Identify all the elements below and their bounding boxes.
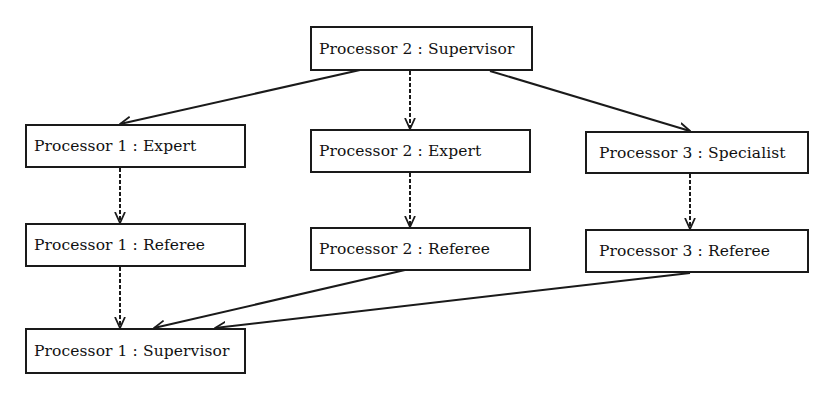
edge-p2referee-p1sup: [154, 270, 405, 328]
node-p1-referee: Processor 1 : Referee: [25, 223, 246, 267]
node-p3-specialist: Processor 3 : Specialist: [585, 131, 809, 174]
edge-p2sup-p3spec: [490, 71, 690, 131]
edge-p2sup-p1expert: [120, 70, 360, 124]
node-p1-supervisor: Processor 1 : Supervisor: [25, 328, 246, 374]
node-p2-supervisor: Processor 2 : Supervisor: [310, 26, 533, 71]
node-p2-referee: Processor 2 : Referee: [310, 227, 531, 271]
node-p1-expert: Processor 1 : Expert: [25, 124, 246, 168]
node-p3-referee: Processor 3 : Referee: [585, 229, 809, 273]
node-p2-expert: Processor 2 : Expert: [310, 129, 531, 173]
edge-p3referee-p1sup: [215, 273, 690, 328]
